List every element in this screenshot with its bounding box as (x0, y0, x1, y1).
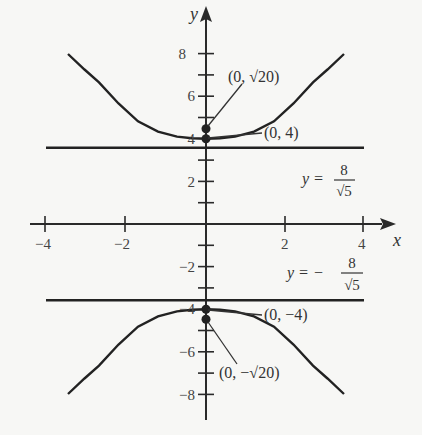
point-0-neg4 (202, 305, 211, 314)
svg-text:√5: √5 (344, 277, 360, 293)
x-tick-label: −4 (35, 236, 51, 252)
y-tick-label: 4 (188, 131, 196, 147)
svg-text:8: 8 (340, 162, 348, 178)
x-tick-label: −2 (114, 236, 130, 252)
svg-text:√5: √5 (336, 183, 352, 199)
y-tick-label: −6 (179, 344, 195, 360)
x-tick-label: 2 (281, 236, 289, 252)
y-tick-label: 6 (188, 88, 196, 104)
y-axis-label: y (188, 4, 198, 24)
point-label-neg-sqrt20: (0, −√20) (219, 364, 279, 382)
point-0-neg-sqrt20 (202, 315, 211, 324)
point-0-4 (202, 134, 211, 143)
x-axis-label: x (392, 230, 401, 250)
y-tick-label: 8 (179, 46, 187, 62)
svg-text:8: 8 (348, 255, 356, 271)
x-axis-arrow-icon (380, 218, 396, 230)
point-label-neg4: (0, −4) (264, 306, 308, 324)
y-tick-label: −4 (179, 301, 195, 317)
hyperbola-graph: y x −4 −2 2 4 8 6 4 2 −2 −4 −6 −8 (0, √2… (0, 0, 422, 435)
y-tick-label: −2 (179, 259, 195, 275)
point-label-sqrt20: (0, √20) (228, 68, 279, 86)
chart-canvas: y x −4 −2 2 4 8 6 4 2 −2 −4 −6 −8 (0, √2… (0, 0, 422, 435)
y-tick-label: −8 (179, 387, 195, 403)
x-tick-label: 4 (358, 236, 366, 252)
point-label-4: (0, 4) (264, 124, 299, 142)
svg-text:y = −: y = − (285, 264, 324, 282)
svg-text:y =: y = (300, 170, 324, 188)
equation-top: y = 8 √5 (300, 162, 355, 199)
equation-bottom: y = − 8 √5 (285, 255, 363, 293)
y-tick-label: 2 (188, 174, 196, 190)
